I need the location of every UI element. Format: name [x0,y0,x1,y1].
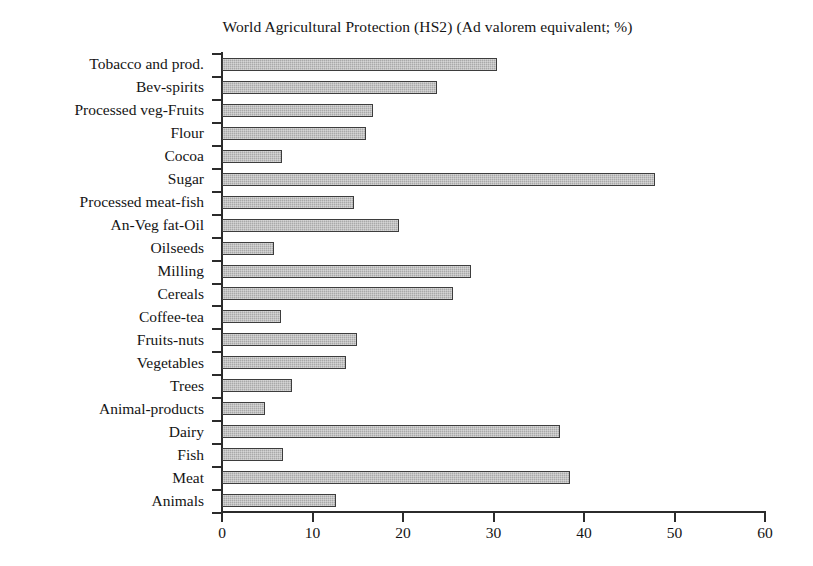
y-axis-tick-label: Cocoa [1,148,213,164]
y-axis-tick-label: Fish [1,447,213,463]
y-axis-tick-label: Processed veg-Fruits [1,102,213,118]
y-axis-tick-label: Processed meat-fish [1,194,213,210]
bar [222,333,357,346]
bar [222,127,366,140]
x-axis-tick-mark [764,512,766,522]
bar-row [222,53,765,76]
bar [222,58,497,71]
bar-row [222,283,765,306]
y-axis-tick-label: Sugar [1,171,213,187]
y-axis-tick-label: Flour [1,125,213,141]
bar [222,494,336,507]
y-axis-tick-mark [212,237,223,239]
y-axis-tick-mark [212,443,223,445]
y-axis-tick-mark [212,283,223,285]
y-axis-tick-mark [212,122,223,124]
bar-row [222,489,765,512]
bar-row [222,420,765,443]
y-axis-tick-mark [212,145,223,147]
chart-title: World Agricultural Protection (HS2) (Ad … [0,18,813,36]
bar [222,425,560,438]
y-axis-tick-mark [212,214,223,216]
y-axis-labels: Tobacco and prod.Bev-spiritsProcessed ve… [0,53,213,512]
y-axis-tick-label: Bev-spirits [1,79,213,95]
x-axis-tick-label: 60 [735,524,795,542]
x-axis-tick-label: 0 [192,524,252,542]
y-axis-tick-label: Oilseeds [1,240,213,256]
bar-row [222,99,765,122]
x-axis-tick-mark [312,512,314,522]
x-axis-tick-label: 50 [645,524,705,542]
bar [222,196,354,209]
bar-row [222,122,765,145]
bar-row [222,305,765,328]
y-axis-tick-mark [212,397,223,399]
bar-row [222,466,765,489]
bar-row [222,76,765,99]
bar-row [222,351,765,374]
bar-row [222,145,765,168]
bar-row [222,260,765,283]
y-axis-tick-mark [212,466,223,468]
y-axis-tick-label: Fruits-nuts [1,332,213,348]
bar [222,173,655,186]
y-axis-tick-label: Tobacco and prod. [1,56,213,72]
bar-row [222,214,765,237]
y-axis-tick-label: Milling [1,263,213,279]
y-axis-tick-label: Meat [1,470,213,486]
y-axis-tick-mark [212,351,223,353]
bar [222,379,292,392]
bar-row [222,237,765,260]
y-axis-tick-label: Trees [1,378,213,394]
y-axis-tick-mark [212,512,223,514]
bar-row [222,397,765,420]
chart-figure: World Agricultural Protection (HS2) (Ad … [0,0,813,566]
y-axis-tick-label: Animal-products [1,401,213,417]
y-axis-tick-mark [212,191,223,193]
y-axis-tick-mark [212,76,223,78]
bar-row [222,328,765,351]
y-axis-tick-label: An-Veg fat-Oil [1,217,213,233]
y-axis-tick-mark [212,489,223,491]
bar [222,310,281,323]
y-axis-tick-mark [212,53,223,55]
x-axis-tick-label: 10 [283,524,343,542]
bar [222,265,471,278]
bar [222,287,453,300]
x-axis-tick-mark [583,512,585,522]
y-axis-tick-label: Dairy [1,424,213,440]
y-axis-tick-label: Cereals [1,286,213,302]
x-axis-tick-label: 40 [554,524,614,542]
plot-area [222,53,765,512]
bar [222,81,437,94]
x-axis-tick-label: 30 [464,524,524,542]
bar [222,471,570,484]
y-axis-tick-mark [212,260,223,262]
x-axis-tick-mark [402,512,404,522]
y-axis-tick-label: Coffee-tea [1,309,213,325]
bar [222,356,346,369]
bar [222,448,283,461]
bar [222,150,282,163]
y-axis-tick-mark [212,99,223,101]
bar [222,242,274,255]
y-axis-tick-mark [212,374,223,376]
bar-row [222,168,765,191]
y-axis-tick-mark [212,420,223,422]
y-axis-tick-mark [212,168,223,170]
bar-row [222,443,765,466]
x-axis-tick-label: 20 [373,524,433,542]
bar [222,104,373,117]
bar-row [222,374,765,397]
y-axis-tick-label: Animals [1,493,213,509]
x-axis-tick-mark [674,512,676,522]
bar [222,219,399,232]
x-axis-tick-mark [493,512,495,522]
y-axis-tick-mark [212,305,223,307]
bar-row [222,191,765,214]
y-axis-tick-mark [212,328,223,330]
bar [222,402,265,415]
y-axis-tick-label: Vegetables [1,355,213,371]
